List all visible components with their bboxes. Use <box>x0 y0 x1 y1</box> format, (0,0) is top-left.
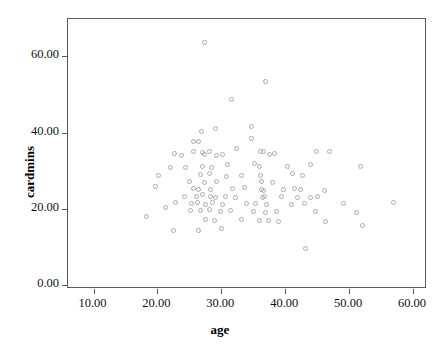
x-tick-label: 20.00 <box>126 296 186 311</box>
data-point <box>261 149 266 154</box>
data-point <box>239 217 244 222</box>
data-point <box>292 186 297 191</box>
data-point <box>224 174 229 179</box>
data-point <box>172 151 177 156</box>
data-point <box>242 185 247 190</box>
data-point <box>220 202 225 207</box>
data-point <box>191 149 196 154</box>
data-point <box>156 173 161 178</box>
data-point <box>289 202 294 207</box>
data-point <box>182 194 187 199</box>
data-point <box>300 173 305 178</box>
x-tick-label: 50.00 <box>318 296 378 311</box>
data-point <box>263 79 268 84</box>
data-point <box>258 173 263 178</box>
data-point <box>290 171 295 176</box>
data-point <box>257 218 262 223</box>
data-point <box>196 228 201 233</box>
data-point <box>210 200 215 205</box>
data-point <box>259 179 264 184</box>
data-point <box>244 201 249 206</box>
scatter-chart: cardmins 0.0020.0040.0060.00 10.0020.003… <box>0 0 440 344</box>
plot-area <box>67 18 426 288</box>
data-point <box>199 129 204 134</box>
x-tick-label: 10.00 <box>63 296 123 311</box>
data-point <box>322 188 327 193</box>
data-point <box>270 180 275 185</box>
data-point <box>203 217 208 222</box>
data-point <box>187 179 192 184</box>
data-point <box>257 164 262 169</box>
data-point <box>203 202 208 207</box>
y-tick-label: 0.00 <box>37 276 59 291</box>
data-point <box>212 218 217 223</box>
data-point <box>263 210 268 215</box>
data-point <box>209 165 214 170</box>
data-point <box>261 188 266 193</box>
data-point <box>313 209 318 214</box>
x-tick-label: 40.00 <box>254 296 314 311</box>
data-point <box>195 200 200 205</box>
data-point <box>308 195 313 200</box>
data-point <box>279 194 284 199</box>
data-point <box>207 207 212 212</box>
data-point <box>191 139 196 144</box>
data-point <box>303 246 308 251</box>
x-tick-mark <box>157 289 158 294</box>
data-point <box>323 219 328 224</box>
x-tick-mark <box>349 289 350 294</box>
data-point <box>234 146 239 151</box>
x-axis-title: age <box>0 322 440 338</box>
data-point <box>200 192 205 197</box>
data-point <box>202 152 207 157</box>
data-point <box>341 201 346 206</box>
data-point <box>239 173 244 178</box>
y-axis-title: cardmins <box>22 146 38 198</box>
data-point <box>229 97 234 102</box>
data-point <box>274 209 279 214</box>
data-point <box>214 153 219 158</box>
data-point <box>253 201 258 206</box>
x-tick-mark <box>221 289 222 294</box>
data-point <box>358 164 363 169</box>
data-point <box>207 171 212 176</box>
data-points-layer <box>68 19 425 287</box>
data-point <box>308 162 313 167</box>
data-point <box>295 195 300 200</box>
data-point <box>225 162 230 167</box>
data-point <box>327 149 332 154</box>
data-point <box>168 165 173 170</box>
data-point <box>267 152 272 157</box>
data-point <box>262 194 267 199</box>
y-tick-label: 60.00 <box>31 47 59 62</box>
data-point <box>198 208 203 213</box>
data-point <box>202 180 207 185</box>
data-point <box>249 124 254 129</box>
data-point <box>391 200 396 205</box>
data-point <box>220 152 225 157</box>
data-point <box>219 226 224 231</box>
data-point <box>281 187 286 192</box>
data-point <box>208 187 213 192</box>
data-point <box>315 194 320 199</box>
data-point <box>183 165 188 170</box>
x-tick-label: 30.00 <box>190 296 250 311</box>
data-point <box>173 200 178 205</box>
data-point <box>354 210 359 215</box>
x-tick-mark <box>94 289 95 294</box>
data-point <box>251 209 256 214</box>
data-point <box>188 208 193 213</box>
data-point <box>230 186 235 191</box>
x-tick-mark <box>285 289 286 294</box>
data-point <box>196 187 201 192</box>
data-point <box>194 194 199 199</box>
data-point <box>171 228 176 233</box>
data-point <box>302 201 307 206</box>
data-point <box>360 223 365 228</box>
data-point <box>202 40 207 45</box>
data-point <box>198 172 203 177</box>
data-point <box>223 194 228 199</box>
y-tick-label: 40.00 <box>31 124 59 139</box>
data-point <box>233 195 238 200</box>
data-point <box>314 149 319 154</box>
